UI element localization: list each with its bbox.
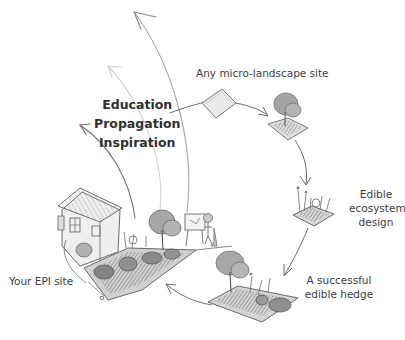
outcome-education: Education [94, 95, 180, 114]
label-your-epi-site: Your EPI site [9, 274, 73, 288]
label-line: A successful [299, 273, 379, 287]
arrow-to-epi [166, 284, 212, 305]
hedge-bed [208, 251, 298, 322]
outcome-inspiration: Inspiration [94, 133, 180, 152]
label-edible-ecosystem-design: Edible ecosystem design [349, 187, 403, 229]
label-successful-hedge: A successful edible hedge [299, 273, 379, 301]
outcome-propagation: Propagation [94, 114, 180, 133]
epi-site-illustration [58, 188, 232, 300]
design-patch [293, 187, 334, 226]
label-line: Edible [349, 187, 403, 201]
cycle-diagram: Education Propagation Inspiration Any mi… [0, 0, 405, 340]
label-any-site: Any micro-landscape site [196, 66, 329, 80]
arrow-to-hedge [284, 228, 308, 276]
label-line: ecosystem [349, 201, 403, 215]
empty-site-illustration [202, 89, 268, 118]
arrow-to-design [295, 140, 311, 185]
outcomes-list: Education Propagation Inspiration [94, 95, 180, 152]
label-line: design [349, 215, 403, 229]
planted-patch-small [268, 93, 308, 140]
label-line: edible hedge [299, 287, 379, 301]
